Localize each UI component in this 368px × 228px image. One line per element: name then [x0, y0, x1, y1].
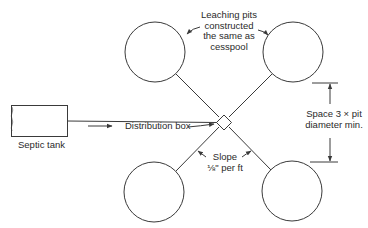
leaching-pits-line-3: the same as — [198, 31, 260, 42]
spacing-line-1: Space 3 × pit — [302, 109, 366, 120]
pit-top-right — [263, 22, 323, 82]
septic-diagram: Septic tank Distribution box Leaching pi… — [0, 0, 368, 228]
septic-tank-label: Septic tank — [18, 140, 65, 151]
distribution-box-leader — [188, 124, 214, 127]
spacing-label: Space 3 × pit diameter min. — [302, 109, 366, 130]
lateral-pipe-top-right — [229, 74, 272, 117]
slope-line-2: ⅛" per ft — [200, 163, 250, 174]
pit-bottom-right — [262, 161, 322, 221]
slope-label: Slope ⅛" per ft — [200, 152, 250, 173]
spacing-line-2: diameter min. — [302, 120, 366, 131]
distribution-box-label: Distribution box — [125, 121, 190, 132]
pit-top-left — [125, 22, 185, 82]
lateral-pipe-top-left — [176, 74, 219, 117]
leaching-pits-line-1: Leaching pits — [198, 10, 260, 21]
leaching-pits-label: Leaching pits constructed the same as ce… — [198, 10, 260, 52]
leaching-pits-line-4: cesspool — [198, 42, 260, 53]
slope-line-1: Slope — [200, 152, 250, 163]
pit-bottom-left — [124, 162, 184, 222]
septic-tank-shape — [12, 106, 68, 137]
